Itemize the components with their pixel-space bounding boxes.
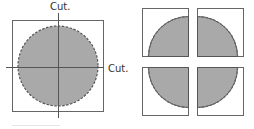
piece-bottom-left (143, 68, 189, 116)
cut-label-top: Cut. (50, 1, 70, 12)
cut-diagram: Cut. Cut. (0, 0, 254, 129)
cut-label-right: Cut. (108, 63, 128, 74)
uncut-square: Cut. Cut. (6, 1, 128, 126)
piece-top-right (198, 9, 244, 57)
piece-bottom-right (198, 68, 244, 116)
piece-top-left (143, 9, 189, 57)
cut-pieces (143, 9, 244, 116)
